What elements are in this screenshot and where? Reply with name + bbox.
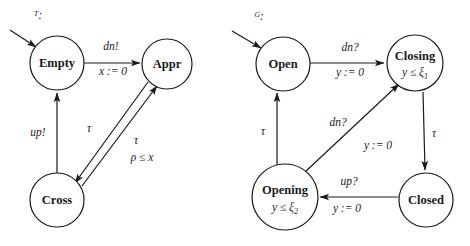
gate-title: ᴳ: xyxy=(254,9,264,23)
initial-arrow-empty xyxy=(10,30,36,47)
state-closing[interactable]: Closing y ≤ ξ1 xyxy=(387,35,443,91)
state-closed-label: Closed xyxy=(408,193,444,207)
state-closed[interactable]: Closed xyxy=(399,173,453,227)
edge-label-tau-up: τ xyxy=(134,134,139,146)
edge-label-dn-bang: dn! xyxy=(103,40,119,52)
edge-label-y-reset-diag: y := 0 xyxy=(363,139,392,152)
state-opening-circle[interactable] xyxy=(252,164,318,230)
state-closing-circle[interactable] xyxy=(387,35,443,91)
edge-label-dn-top: dn? xyxy=(341,41,359,53)
state-opening[interactable]: Opening y ≤ ξ2 xyxy=(252,164,318,230)
train-title: ᵀ: xyxy=(34,8,43,22)
edge-label-up-bottom: up? xyxy=(340,175,358,188)
edge-opening-to-closing xyxy=(305,84,399,172)
initial-arrow-open xyxy=(232,31,261,48)
automata-diagram: ᵀ: dn! x := 0 up! τ τ ρ ≤ x Empty Appr C… xyxy=(0,0,470,246)
edge-label-rho-guard: ρ ≤ x xyxy=(130,151,155,164)
state-opening-invariant-subscript: 2 xyxy=(294,207,298,216)
state-appr-label: Appr xyxy=(153,57,182,71)
edge-label-y-reset-bottom: y := 0 xyxy=(332,202,361,215)
state-closing-invariant-subscript: 1 xyxy=(424,72,428,81)
edge-label-x-reset: x := 0 xyxy=(98,65,127,77)
state-closing-invariant-expr: y ≤ ξ xyxy=(401,66,424,79)
state-cross[interactable]: Cross xyxy=(30,173,84,227)
figure-canvas: ᵀ: dn! x := 0 up! τ τ ρ ≤ x Empty Appr C… xyxy=(0,0,470,246)
train-automaton: ᵀ: dn! x := 0 up! τ τ ρ ≤ x Empty Appr C… xyxy=(10,8,192,227)
edge-label-tau-left: τ xyxy=(261,125,266,137)
state-closing-label: Closing xyxy=(395,49,436,63)
edge-cross-to-appr xyxy=(82,86,157,186)
state-open-label: Open xyxy=(268,57,297,71)
edge-label-dn-diag: dn? xyxy=(329,116,347,128)
edge-closing-to-closed xyxy=(423,92,425,170)
state-appr[interactable]: Appr xyxy=(142,39,192,89)
gate-automaton: ᴳ: dn? y := 0 τ up? y := 0 τ dn? y := 0 … xyxy=(232,9,453,230)
edge-label-tau-right: τ xyxy=(432,127,437,139)
edge-appr-to-cross xyxy=(75,82,148,183)
edge-label-tau-down: τ xyxy=(87,122,92,134)
state-cross-label: Cross xyxy=(42,193,72,207)
state-empty[interactable]: Empty xyxy=(30,36,84,90)
state-opening-label: Opening xyxy=(262,183,309,197)
state-opening-invariant-expr: y ≤ ξ xyxy=(271,201,294,214)
state-empty-label: Empty xyxy=(39,56,76,70)
edge-label-y-reset-top: y := 0 xyxy=(335,66,364,79)
edge-label-up-bang: up! xyxy=(30,126,46,139)
state-open[interactable]: Open xyxy=(256,37,310,91)
